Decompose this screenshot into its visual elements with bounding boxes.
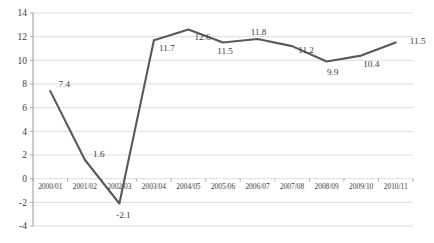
y-axis-tick-label: 2 — [22, 150, 27, 160]
y-axis-tick-label: -2 — [19, 198, 27, 208]
x-axis-tick-label: 2010/11 — [384, 182, 408, 191]
x-axis-tick-label: 2001/02 — [73, 182, 98, 191]
data-point-label: 10.4 — [363, 59, 379, 69]
x-axis-tick-label: 2009/10 — [349, 182, 374, 191]
data-point-label: 9.9 — [327, 67, 339, 77]
x-axis-tick-label: 2004/05 — [176, 182, 201, 191]
x-axis-tick-labels: 2000/012001/022002/032003/042004/052005/… — [38, 182, 408, 191]
x-axis-tick-label: 2008/09 — [315, 182, 340, 191]
x-axis-tick-label: 2007/08 — [280, 182, 305, 191]
y-axis-tick-label: 6 — [22, 103, 27, 113]
data-point-label: 1.6 — [93, 149, 105, 159]
line-chart: 14121086420-2-4 2000/012001/022002/03200… — [0, 0, 434, 243]
data-point-label: 11.2 — [298, 45, 314, 55]
data-point-label: 11.5 — [410, 36, 426, 46]
data-point-label: -2.1 — [116, 210, 131, 220]
data-point-label: 11.7 — [159, 43, 175, 53]
y-axis-tick-label: 12 — [18, 32, 28, 42]
x-axis-tick-label: 2000/01 — [38, 182, 63, 191]
x-axis-tick-label: 2005/06 — [211, 182, 236, 191]
y-axis-tick-label: 0 — [22, 174, 27, 184]
data-point-label: 11.5 — [217, 46, 233, 56]
data-point-label: 12.6 — [194, 32, 210, 42]
y-axis-tick-label: 14 — [18, 8, 28, 18]
y-axis-tick-label: 10 — [18, 56, 28, 66]
x-axis-tick-label: 2003/04 — [142, 182, 167, 191]
x-axis-tick-label: 2006/07 — [245, 182, 270, 191]
y-axis-tick-label: 4 — [22, 127, 27, 137]
x-axis-tick-label: 2002/03 — [107, 182, 132, 191]
chart-canvas: 14121086420-2-4 2000/012001/022002/03200… — [0, 0, 434, 243]
data-point-label: 7.4 — [59, 79, 71, 89]
data-point-label: 11.8 — [251, 27, 267, 37]
y-axis-tick-label: -4 — [19, 221, 27, 231]
y-axis-tick-label: 8 — [22, 79, 27, 89]
